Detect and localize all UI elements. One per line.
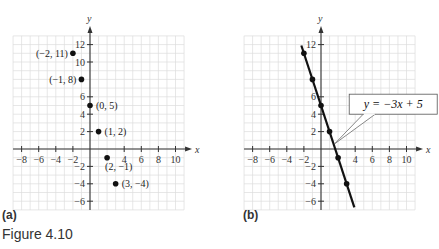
svg-text:2: 2: [80, 126, 85, 137]
data-point: [96, 129, 102, 135]
data-point: [344, 181, 350, 187]
data-point: [335, 155, 341, 161]
svg-text:4: 4: [80, 109, 85, 120]
data-point: [79, 77, 85, 83]
svg-text:12: 12: [306, 39, 316, 50]
svg-text:−8: −8: [16, 154, 27, 165]
svg-text:−2: −2: [74, 161, 85, 172]
svg-text:(1, 2): (1, 2): [105, 126, 127, 138]
svg-text:−6: −6: [74, 196, 85, 207]
svg-text:10: 10: [402, 154, 412, 165]
svg-text:8: 8: [387, 154, 392, 165]
svg-text:−4: −4: [305, 178, 316, 189]
chart-panel-b: xy−8−6−4−246810−6−4−224612y = −3x + 5: [244, 13, 437, 210]
svg-text:−4: −4: [281, 154, 292, 165]
panel-a-label: (a): [2, 208, 17, 222]
figure-canvas: xy−8−6−4−246810−6−4−22461012(−2, 11)(−1,…: [0, 0, 439, 249]
figure-caption: Figure 4.10: [2, 226, 73, 242]
svg-text:(2, −1): (2, −1): [105, 161, 132, 173]
svg-text:4: 4: [311, 109, 316, 120]
svg-text:(−2, 11): (−2, 11): [36, 48, 68, 60]
svg-text:−4: −4: [74, 178, 85, 189]
svg-text:(0, 5): (0, 5): [96, 100, 118, 112]
data-point: [327, 129, 333, 135]
svg-text:12: 12: [75, 39, 85, 50]
data-point: [113, 181, 119, 187]
svg-text:10: 10: [171, 154, 181, 165]
data-point: [87, 103, 93, 109]
chart-panel-a: xy−8−6−4−246810−6−4−22461012(−2, 11)(−1,…: [13, 13, 200, 210]
svg-text:8: 8: [156, 154, 161, 165]
svg-text:−4: −4: [50, 154, 61, 165]
svg-text:−6: −6: [264, 154, 275, 165]
svg-text:6: 6: [311, 91, 316, 102]
svg-text:−6: −6: [305, 196, 316, 207]
data-point: [301, 51, 307, 57]
data-point: [104, 155, 110, 161]
svg-text:(−1, 8): (−1, 8): [49, 74, 76, 86]
svg-text:y: y: [86, 13, 92, 24]
svg-text:10: 10: [75, 57, 85, 68]
svg-text:−2: −2: [305, 161, 316, 172]
svg-text:−6: −6: [33, 154, 44, 165]
data-point: [310, 77, 316, 83]
data-point: [70, 51, 76, 57]
svg-text:6: 6: [370, 154, 375, 165]
svg-text:−8: −8: [247, 154, 258, 165]
svg-text:6: 6: [80, 91, 85, 102]
svg-text:y: y: [317, 13, 323, 24]
data-point: [318, 103, 324, 109]
svg-text:2: 2: [311, 126, 316, 137]
svg-text:x: x: [194, 144, 200, 155]
svg-text:6: 6: [139, 154, 144, 165]
svg-text:x: x: [425, 144, 431, 155]
svg-text:4: 4: [353, 154, 358, 165]
panel-b-label: (b): [243, 208, 258, 222]
svg-text:y = −3x + 5: y = −3x + 5: [363, 97, 423, 111]
svg-text:(3, −4): (3, −4): [122, 178, 149, 190]
